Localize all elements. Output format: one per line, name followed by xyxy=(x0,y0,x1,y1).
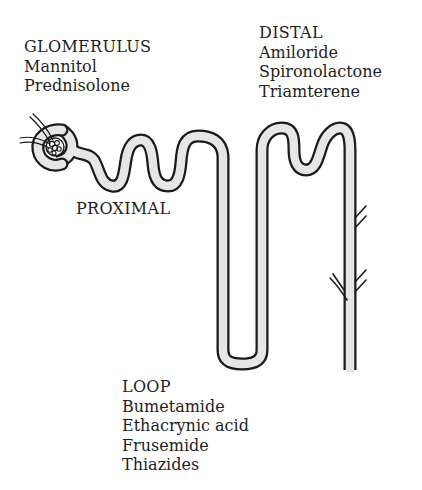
renal-tubule xyxy=(57,128,350,372)
drug-spironolactone: Spironolactone xyxy=(259,62,382,82)
glomerulus-label: GLOMERULUS Mannitol Prednisolone xyxy=(24,37,151,96)
drug-prednisolone: Prednisolone xyxy=(24,76,151,96)
drug-thiazides: Thiazides xyxy=(122,455,249,475)
drug-bumetamide: Bumetamide xyxy=(122,397,249,417)
drug-frusemide: Frusemide xyxy=(122,436,249,456)
drug-amiloride: Amiloride xyxy=(259,43,382,63)
loop-heading: LOOP xyxy=(122,377,249,397)
drug-triamterene: Triamterene xyxy=(259,82,382,102)
glomerulus-heading: GLOMERULUS xyxy=(24,37,151,57)
loop-label: LOOP Bumetamide Ethacrynic acid Frusemid… xyxy=(122,377,249,475)
distal-heading: DISTAL xyxy=(259,23,382,43)
proximal-heading: PROXIMAL xyxy=(76,199,170,219)
arterioles xyxy=(20,114,53,148)
distal-label: DISTAL Amiloride Spironolactone Triamter… xyxy=(259,23,382,101)
drug-ethacrynic-acid: Ethacrynic acid xyxy=(122,416,249,436)
proximal-label: PROXIMAL xyxy=(76,199,170,219)
drug-mannitol: Mannitol xyxy=(24,57,151,77)
